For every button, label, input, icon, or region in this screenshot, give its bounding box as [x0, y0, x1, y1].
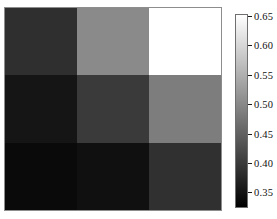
colorbar-tick-container: 0.650.600.550.500.450.400.35: [248, 14, 277, 208]
colorbar: [235, 14, 248, 208]
heatmap-cell: [5, 143, 77, 210]
heatmap-cell: [149, 143, 221, 210]
colorbar-tick-mark: [248, 75, 252, 76]
colorbar-gradient: [236, 15, 247, 207]
colorbar-tick-label: 0.45: [254, 128, 273, 141]
colorbar-tick-label: 0.50: [254, 98, 273, 111]
colorbar-tick-label: 0.60: [254, 39, 273, 52]
colorbar-tick-mark: [248, 45, 252, 46]
colorbar-tick-mark: [248, 192, 252, 193]
colorbar-tick-mark: [248, 104, 252, 105]
heatmap-cell: [77, 75, 149, 142]
colorbar-tick-label: 0.55: [254, 69, 273, 82]
colorbar-tick-mark: [248, 163, 252, 164]
colorbar-tick-label: 0.65: [254, 10, 273, 23]
heatmap-cell: [77, 143, 149, 210]
colorbar-tick-mark: [248, 16, 252, 17]
colorbar-tick-mark: [248, 134, 252, 135]
figure-canvas: 0.650.600.550.500.450.400.35: [0, 0, 277, 219]
heatmap-cell: [77, 8, 149, 75]
heatmap-cell: [149, 8, 221, 75]
heatmap-cell: [5, 8, 77, 75]
heatmap-cell: [149, 75, 221, 142]
colorbar-tick-label: 0.35: [254, 186, 273, 199]
heatmap-cell: [5, 75, 77, 142]
colorbar-tick-label: 0.40: [254, 157, 273, 170]
heatmap-grid: [5, 8, 221, 210]
heatmap-axes: [4, 7, 222, 211]
